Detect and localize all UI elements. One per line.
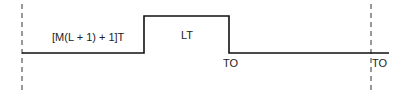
fall-marker-label: TO	[223, 58, 238, 69]
waveform-graphic	[0, 0, 407, 92]
timing-diagram: [M(L + 1) + 1]T LT TO TO	[0, 0, 407, 92]
high-interval-label: LT	[181, 30, 193, 41]
end-marker-label: TO	[372, 58, 387, 69]
low-interval-label: [M(L + 1) + 1]T	[52, 32, 124, 43]
